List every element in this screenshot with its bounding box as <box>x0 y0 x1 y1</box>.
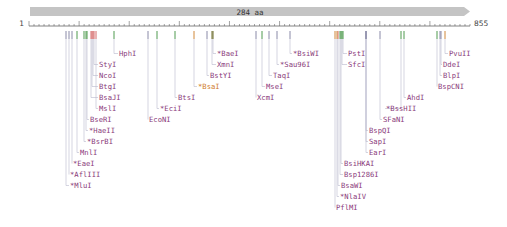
leader-line <box>212 39 216 65</box>
leader-line <box>385 39 401 109</box>
site-label[interactable]: *EaeI <box>73 159 95 168</box>
site-label[interactable]: EarI <box>369 148 386 157</box>
site-label[interactable]: MslI <box>99 104 116 113</box>
site-label[interactable]: PstI <box>348 49 365 58</box>
site-label[interactable]: TaqI <box>273 71 290 80</box>
site-label[interactable]: *BsiWI <box>293 49 319 58</box>
leader-line <box>277 39 279 65</box>
site-ahdi[interactable]: AhdI <box>404 31 424 102</box>
site-label[interactable]: BtsI <box>178 93 195 102</box>
leader-line <box>380 39 382 120</box>
site-label[interactable]: SfcI <box>348 60 365 69</box>
leader-line <box>445 39 448 54</box>
leader-line <box>290 39 292 54</box>
restriction-map: 284 aa 1 855 HphIStyINcoIBtgIBsaJIMslIBs… <box>0 0 507 227</box>
ruler: 1 855 <box>19 19 488 28</box>
leader-line <box>441 39 442 65</box>
site-label[interactable]: SapI <box>369 137 386 146</box>
site-styi[interactable]: StyI <box>94 31 116 69</box>
leader-line <box>87 39 89 120</box>
site-label[interactable]: NcoI <box>99 71 116 80</box>
site-btsi[interactable]: BtsI <box>175 31 195 102</box>
site-taqi[interactable]: TaqI <box>269 31 290 80</box>
site-label[interactable]: *BaeI <box>217 49 239 58</box>
site-label[interactable]: StyI <box>99 60 116 69</box>
site-label[interactable]: AhdI <box>407 93 424 102</box>
site-label[interactable]: DdeI <box>443 60 460 69</box>
leader-line <box>262 39 265 87</box>
leader-line <box>269 39 272 76</box>
site-label[interactable]: BspCNI <box>438 82 464 91</box>
leader-line <box>343 39 347 54</box>
site-label[interactable]: *BsaI <box>198 82 220 91</box>
leader-line <box>77 39 79 153</box>
site-label[interactable]: PflMI <box>336 203 358 212</box>
site-psti[interactable]: PstI <box>343 31 365 58</box>
site-label[interactable]: HphI <box>119 49 136 58</box>
site-label[interactable]: PvuII <box>449 49 471 58</box>
site-label[interactable]: Bsp1286I <box>344 170 379 179</box>
site-label[interactable]: SFaNI <box>383 115 405 124</box>
leader-line <box>194 39 197 87</box>
feature-arrow[interactable]: 284 aa <box>30 7 470 17</box>
leader-line <box>207 39 209 76</box>
site-label[interactable]: MseI <box>266 82 283 91</box>
site-baei[interactable]: *BaeI <box>213 31 239 58</box>
feature-label: 284 aa <box>236 8 263 17</box>
site-hphi[interactable]: HphI <box>114 31 136 58</box>
site-label[interactable]: *AflIII <box>70 170 100 179</box>
site-label[interactable]: XmnI <box>217 60 234 69</box>
leader-line <box>114 39 118 54</box>
site-xcmi[interactable]: XcmI <box>256 31 274 102</box>
site-label[interactable]: *BsrBI <box>87 137 113 146</box>
leader-line <box>404 39 406 98</box>
site-label[interactable]: *BssHII <box>386 104 416 113</box>
restriction-sites: HphIStyINcoIBtgIBsaJIMslIBseRI*HaeII*Bsr… <box>66 31 471 212</box>
leader-line <box>366 39 368 153</box>
site-label[interactable]: XcmI <box>257 93 274 102</box>
leader-line <box>157 39 159 109</box>
site-label[interactable]: *EciI <box>160 104 182 113</box>
site-label[interactable]: BsaWI <box>341 181 363 190</box>
site-label[interactable]: *NlaIV <box>340 192 367 201</box>
site-label[interactable]: BseRI <box>90 115 112 124</box>
site-pvuii[interactable]: PvuII <box>445 31 471 58</box>
ruler-end-label: 855 <box>474 19 489 28</box>
site-label[interactable]: *HaeII <box>89 126 115 135</box>
site-label[interactable]: BtgI <box>99 82 116 91</box>
leader-line <box>66 39 69 186</box>
leader-line <box>175 39 177 98</box>
ruler-start-label: 1 <box>19 19 24 28</box>
site-bsiwi[interactable]: *BsiWI <box>290 31 319 58</box>
site-label[interactable]: BsaJI <box>99 93 121 102</box>
site-label[interactable]: *MluI <box>70 181 92 190</box>
site-label[interactable]: EcoNI <box>149 115 171 124</box>
leader-line <box>213 39 216 54</box>
site-label[interactable]: BsiHKAI <box>344 159 374 168</box>
leader-line <box>96 39 98 109</box>
site-label[interactable]: MnlI <box>80 148 97 157</box>
leader-line <box>340 39 343 175</box>
site-label[interactable]: BstYI <box>210 71 232 80</box>
site-label[interactable]: BlpI <box>443 71 460 80</box>
site-label[interactable]: BspQI <box>369 126 391 135</box>
site-label[interactable]: *Sau96I <box>280 60 310 69</box>
